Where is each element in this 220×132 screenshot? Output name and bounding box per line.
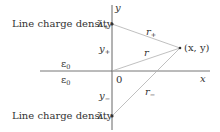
x-axis-label: x xyxy=(200,73,206,84)
origin-label: 0 xyxy=(116,74,122,85)
r-label: r xyxy=(144,47,150,58)
epsilon-top-label: ε0 xyxy=(61,58,70,71)
epsilon-bottom-label: ε0 xyxy=(61,74,70,87)
y-plus-label: y+ xyxy=(98,43,110,56)
line-charge-diagram: Line charge density λ+ y+ y ε0 ε0 0 x r+… xyxy=(0,0,220,132)
r-minus-label: r− xyxy=(145,86,155,99)
r-plus-label: r+ xyxy=(146,26,156,39)
y-minus-label: y− xyxy=(98,90,110,103)
field-point xyxy=(179,47,182,50)
y-axis-label: y xyxy=(114,2,121,13)
point-xy-label: (x, y) xyxy=(184,42,210,53)
